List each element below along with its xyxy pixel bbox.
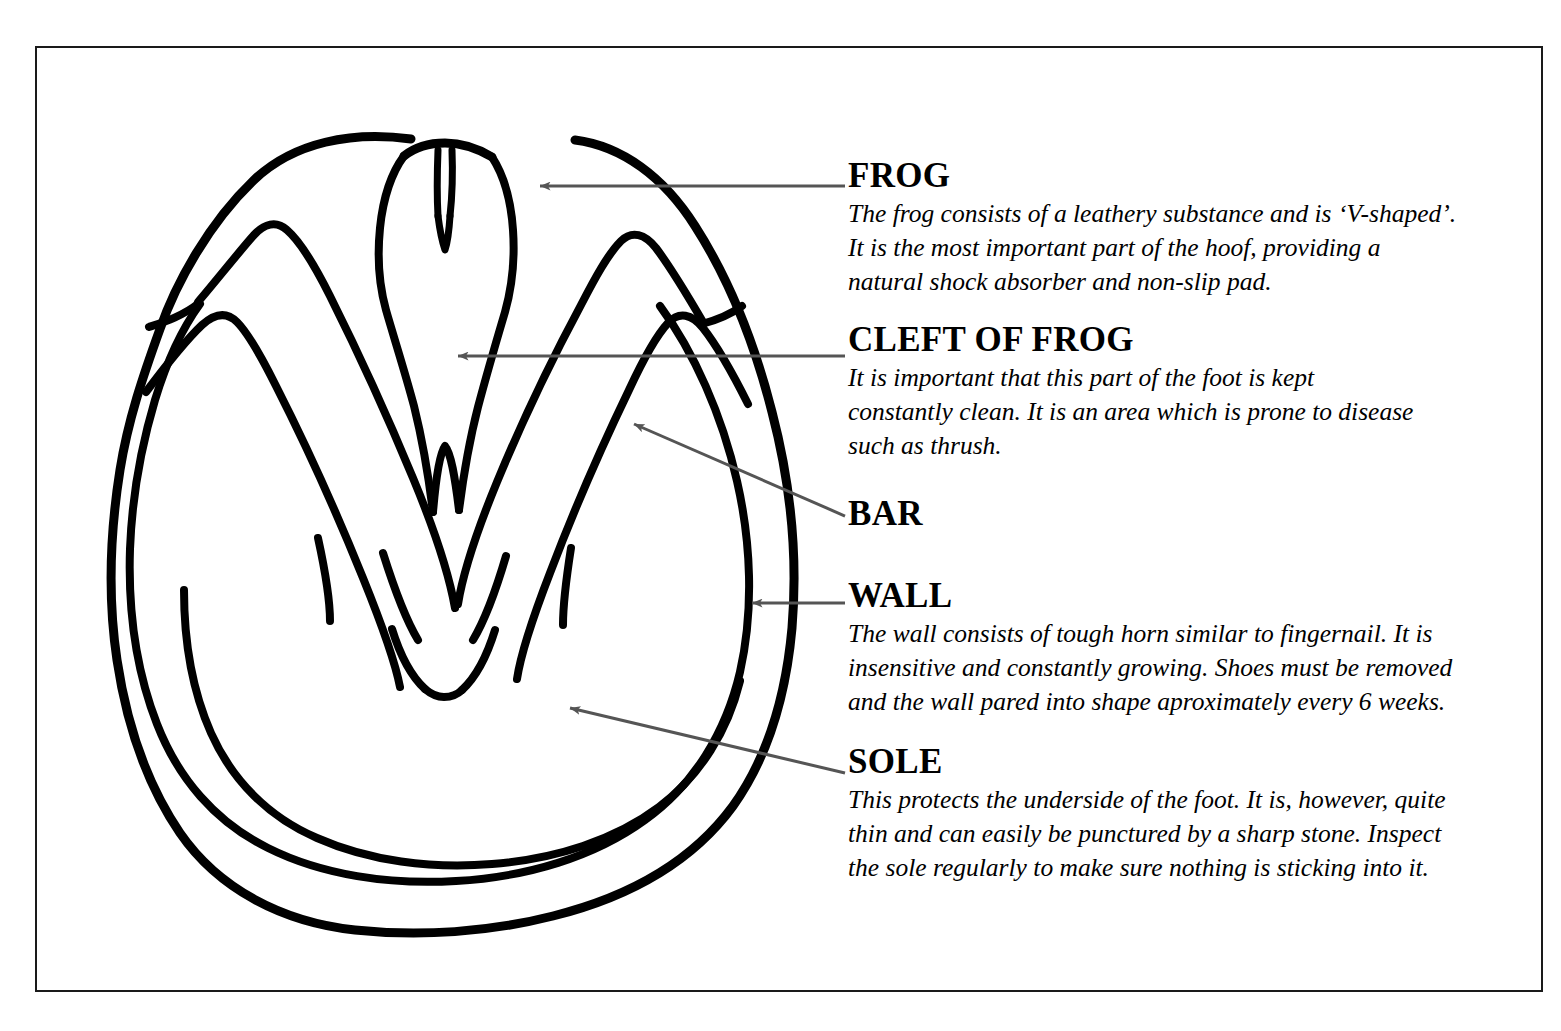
annotation-body-sole: This protects the underside of the foot.… (848, 783, 1508, 885)
annotation-body-frog: The frog consists of a leathery substanc… (848, 197, 1508, 299)
annotation-line: natural shock absorber and non-slip pad. (848, 265, 1508, 299)
annotation-line: and the wall pared into shape aproximate… (848, 685, 1508, 719)
annotation-block-wall: WALL The wall consists of tough horn sim… (848, 578, 1508, 719)
annotation-heading-frog: FROG (848, 158, 1508, 194)
annotation-line: thin and can easily be punctured by a sh… (848, 817, 1508, 851)
annotation-line: It is the most important part of the hoo… (848, 231, 1508, 265)
annotation-heading-bar: BAR (848, 496, 1508, 532)
annotation-body-cleft-of-frog: It is important that this part of the fo… (848, 361, 1508, 463)
annotation-line: constantly clean. It is an area which is… (848, 395, 1508, 429)
annotation-body-wall: The wall consists of tough horn similar … (848, 617, 1508, 719)
annotation-block-cleft-of-frog: CLEFT OF FROG It is important that this … (848, 322, 1508, 463)
annotation-line: such as thrush. (848, 429, 1508, 463)
annotation-heading-sole: SOLE (848, 744, 1508, 780)
annotation-line: This protects the underside of the foot.… (848, 783, 1508, 817)
annotation-heading-wall: WALL (848, 578, 1508, 614)
annotation-line: The frog consists of a leathery substanc… (848, 197, 1508, 231)
diagram-page: FROG The frog consists of a leathery sub… (0, 0, 1561, 1031)
annotation-line: the sole regularly to make sure nothing … (848, 851, 1508, 885)
annotation-block-sole: SOLE This protects the underside of the … (848, 744, 1508, 885)
annotation-line: It is important that this part of the fo… (848, 361, 1508, 395)
annotation-block-bar: BAR (848, 496, 1508, 535)
annotation-heading-cleft-of-frog: CLEFT OF FROG (848, 322, 1508, 358)
annotation-block-frog: FROG The frog consists of a leathery sub… (848, 158, 1508, 299)
annotation-line: insensitive and constantly growing. Shoe… (848, 651, 1508, 685)
annotation-line: The wall consists of tough horn similar … (848, 617, 1508, 651)
